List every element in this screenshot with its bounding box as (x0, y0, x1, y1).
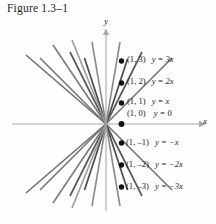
point-label-1-3: (1, 3)y = 3x (127, 55, 174, 64)
equation-y-neg-2x: y = −2x (155, 159, 183, 169)
coordinate-plot (0, 0, 216, 224)
point-coords-1-3: (1, 3) (127, 54, 146, 64)
point-label-1-0: (1, 0)y = 0 (127, 109, 172, 118)
equation-y-2x: y = 2x (152, 76, 174, 86)
equation-y-0: y = 0 (154, 108, 172, 118)
point-label-1-2: (1, 2)y = 2x (127, 77, 174, 86)
data-point-1-1 (119, 100, 124, 105)
data-point-1-neg1 (119, 140, 124, 145)
data-point-1-2 (119, 80, 124, 85)
data-point-1-neg2 (119, 162, 124, 167)
data-point-1-3 (119, 58, 124, 63)
point-coords-1-neg2: (1, –2) (126, 159, 149, 169)
point-coords-1-0: (1, 0) (127, 108, 146, 118)
point-coords-1-2: (1, 2) (127, 76, 146, 86)
equation-y-neg-3x: y = −3x (155, 181, 183, 191)
figure-container: Figure 1.3–1 (0, 0, 216, 224)
point-coords-1-1: (1, 1) (127, 96, 146, 106)
y-axis-label: y (104, 16, 108, 26)
point-coords-1-neg1: (1, –1) (126, 137, 149, 147)
equation-y-x: y = x (152, 96, 170, 106)
data-point-1-0 (119, 121, 125, 127)
point-label-1-neg2: (1, –2)y = −2x (126, 160, 183, 169)
point-label-1-neg1: (1, –1)y = −x (126, 138, 178, 147)
x-axis-label: x (203, 116, 207, 126)
point-label-1-1: (1, 1)y = x (127, 97, 169, 106)
point-coords-1-neg3: (1, –3) (126, 181, 149, 191)
equation-y-3x: y = 3x (152, 54, 174, 64)
y-axis-arrowhead (103, 29, 109, 36)
equation-y-neg-x: y = −x (155, 137, 179, 147)
point-label-1-neg3: (1, –3)y = −3x (126, 182, 183, 191)
data-point-1-neg3 (119, 184, 124, 189)
